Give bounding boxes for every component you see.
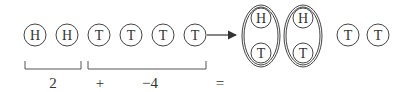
counter-h-2: H (56, 24, 78, 46)
term-2: −4 (142, 75, 158, 91)
counter-h-1: H (24, 24, 46, 46)
svg-text:T: T (257, 46, 266, 61)
counter-t-1: T (88, 24, 110, 46)
svg-text:T: T (127, 28, 136, 43)
counter-t-2: T (120, 24, 142, 46)
zero-pair-2: H T (284, 5, 322, 67)
svg-text:T: T (344, 28, 353, 43)
svg-text:H: H (62, 28, 72, 43)
svg-text:T: T (374, 28, 383, 43)
leftover-t-1: T (337, 24, 359, 46)
zero-pair-diagram: H H T T T T H T H T T (0, 0, 410, 92)
counter-t-3: T (152, 24, 174, 46)
svg-text:T: T (299, 46, 308, 61)
plus-sign: + (96, 75, 104, 91)
svg-text:T: T (95, 28, 104, 43)
bracket-tails (88, 61, 206, 69)
svg-text:H: H (256, 11, 266, 26)
leftover-t-2: T (367, 24, 389, 46)
counter-t-4: T (184, 24, 206, 46)
svg-text:H: H (298, 11, 308, 26)
svg-text:T: T (191, 28, 200, 43)
svg-text:H: H (30, 28, 40, 43)
zero-pair-1: H T (242, 5, 280, 67)
bracket-heads (25, 61, 81, 69)
equals-sign: = (216, 75, 224, 91)
svg-text:T: T (159, 28, 168, 43)
term-1: 2 (49, 75, 57, 91)
